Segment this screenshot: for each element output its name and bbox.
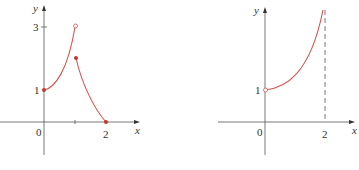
tick-label-y1: 1 xyxy=(255,84,261,96)
origin-label: 0 xyxy=(257,126,263,138)
graph-2: y 1 0 2 x xyxy=(218,4,357,155)
curve xyxy=(265,10,323,90)
tick-label-x2: 2 xyxy=(103,128,109,140)
origin-label: 0 xyxy=(36,126,42,138)
curve-piece-2 xyxy=(76,58,106,122)
figure: y 3 1 0 2 x y 1 0 2 x xyxy=(0,0,359,170)
y-axis-arrow-icon xyxy=(263,7,267,13)
y-axis-label: y xyxy=(32,2,38,14)
curve-piece-1 xyxy=(44,27,75,90)
closed-dot xyxy=(74,56,78,60)
tick-label-x2: 2 xyxy=(322,128,328,140)
graph-1: y 3 1 0 2 x xyxy=(0,2,140,155)
closed-dot xyxy=(104,120,108,124)
tick-label-y1: 1 xyxy=(34,84,40,96)
open-dot xyxy=(264,88,268,92)
y-axis-label: y xyxy=(253,4,259,16)
y-axis-arrow-icon xyxy=(42,5,46,11)
x-axis-label: x xyxy=(351,124,357,136)
open-dot xyxy=(74,24,78,28)
tick-label-y3: 3 xyxy=(33,21,39,33)
x-axis-label: x xyxy=(134,124,140,136)
closed-dot xyxy=(42,88,46,92)
